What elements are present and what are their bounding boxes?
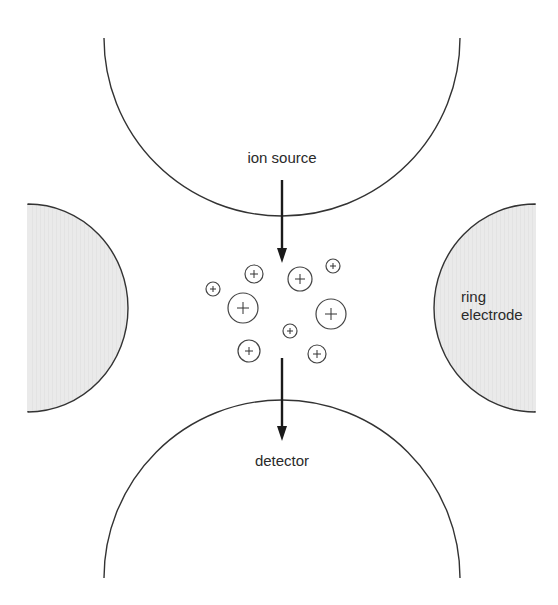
left-ring-electrode bbox=[28, 204, 128, 412]
ring-electrode-label-line2: electrode bbox=[461, 306, 523, 323]
ion-source-label: ion source bbox=[247, 149, 316, 166]
positive-ion bbox=[308, 345, 326, 363]
ring-electrode-label-line1: ring bbox=[461, 288, 486, 305]
positive-ion bbox=[316, 299, 346, 329]
positive-ion bbox=[206, 282, 220, 296]
detector-label: detector bbox=[255, 452, 309, 469]
positive-ion bbox=[238, 340, 260, 362]
positive-ion bbox=[288, 267, 312, 291]
positive-ion bbox=[326, 259, 340, 273]
detector-arrow-head-icon bbox=[277, 426, 287, 441]
positive-ion bbox=[283, 324, 297, 338]
ion-source-arrow-head-icon bbox=[277, 248, 287, 263]
positive-ion bbox=[245, 265, 263, 283]
ion-cloud bbox=[206, 259, 346, 363]
positive-ion bbox=[228, 293, 258, 323]
ion-trap-diagram: ring electrode ion source detector bbox=[0, 0, 558, 605]
